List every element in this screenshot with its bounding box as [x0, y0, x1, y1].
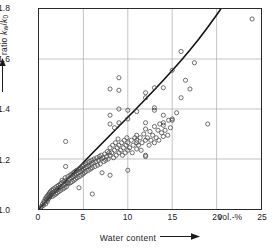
- data-point: [148, 129, 152, 133]
- x-axis-unit: vol.-%: [218, 212, 242, 222]
- data-point: [157, 138, 161, 142]
- data-point: [161, 134, 165, 138]
- x-axis-title: Water content: [38, 232, 262, 243]
- data-point: [121, 146, 125, 150]
- x-tick-label: 0: [36, 212, 41, 222]
- data-point: [120, 153, 124, 157]
- data-point: [117, 76, 121, 80]
- data-point: [64, 164, 68, 168]
- chart-canvas: [39, 9, 261, 209]
- data-point: [175, 111, 179, 115]
- data-point: [143, 91, 147, 95]
- data-point: [154, 136, 158, 140]
- data-point: [112, 126, 116, 130]
- data-point: [111, 143, 115, 147]
- data-point: [64, 139, 68, 143]
- data-point: [183, 78, 187, 82]
- data-point: [250, 17, 254, 21]
- data-point: [179, 96, 183, 100]
- data-point: [143, 127, 147, 131]
- x-tick-label: 5: [80, 212, 85, 222]
- data-point: [192, 61, 196, 65]
- data-point: [108, 146, 112, 150]
- data-points: [39, 17, 254, 209]
- data-point: [116, 137, 120, 141]
- data-point: [138, 136, 142, 140]
- data-point: [108, 122, 112, 126]
- x-tick-label: 25: [257, 212, 267, 222]
- data-point: [161, 86, 165, 90]
- data-point: [125, 136, 129, 140]
- data-point: [120, 141, 124, 145]
- data-point: [163, 128, 167, 132]
- data-point: [152, 124, 156, 128]
- x-tick-label: 10: [123, 212, 133, 222]
- data-point: [77, 186, 81, 190]
- x-tick-label: 15: [168, 212, 178, 222]
- y-axis-title-text: ratio kw/k0: [0, 15, 9, 55]
- data-point: [143, 121, 147, 125]
- x-axis-title-text: Water content: [100, 233, 157, 243]
- y-tick-label: 1.4: [0, 104, 10, 114]
- x-axis-arrow-icon: [160, 232, 200, 243]
- data-point: [100, 171, 104, 175]
- data-point: [112, 148, 116, 152]
- data-point: [135, 109, 139, 113]
- data-point: [142, 132, 146, 136]
- data-point: [161, 113, 165, 117]
- data-point: [114, 153, 118, 157]
- data-point: [166, 133, 170, 137]
- data-point: [117, 88, 121, 92]
- plot-area: [38, 8, 262, 210]
- data-point: [188, 87, 192, 91]
- data-point: [152, 141, 156, 145]
- data-point: [123, 151, 127, 155]
- data-point: [147, 143, 151, 147]
- figure: 1.0 1.2 1.4 1.6 1.8 0 5 10 15 20 25 vol.…: [0, 0, 275, 250]
- data-point: [130, 151, 134, 155]
- data-point: [179, 49, 183, 53]
- y-axis-title: ratio kw/k0: [0, 0, 9, 92]
- data-point: [108, 87, 112, 91]
- data-point: [206, 122, 210, 126]
- data-point: [90, 192, 94, 196]
- data-point: [108, 113, 112, 117]
- y-tick-label: 1.0: [0, 205, 10, 215]
- data-point: [108, 173, 112, 177]
- data-point: [117, 121, 121, 125]
- data-point: [139, 148, 143, 152]
- y-tick-label: 1.2: [0, 155, 10, 165]
- y-axis-arrow-icon: [0, 58, 9, 92]
